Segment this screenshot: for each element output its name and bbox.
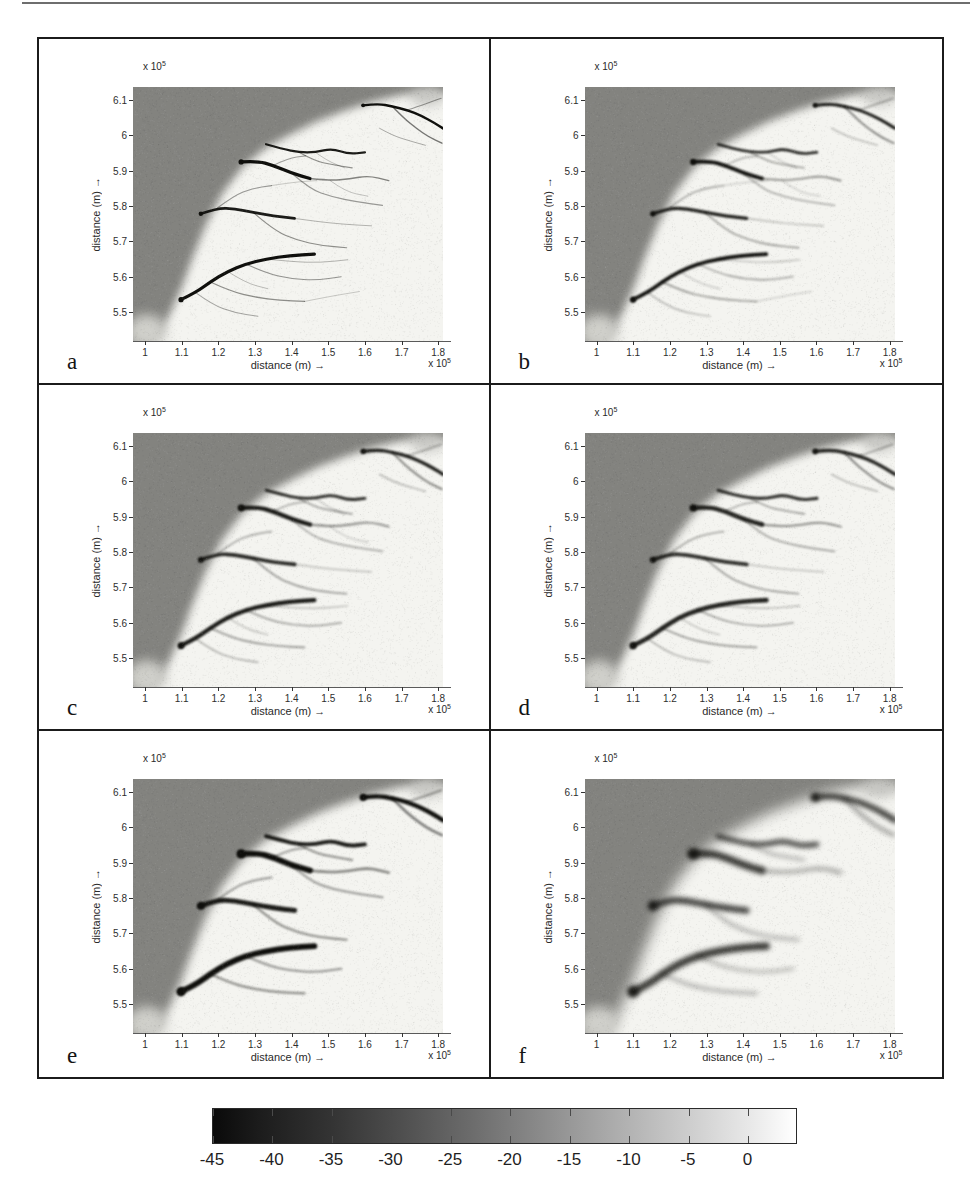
x-tick-label: 1.7	[395, 1039, 409, 1050]
y-exponent-base: x 10	[595, 61, 614, 72]
x-tick-mark	[438, 687, 439, 691]
y-tick-mark	[129, 517, 133, 518]
y-tick-mark	[129, 1004, 133, 1005]
y-exponent-base: x 10	[595, 753, 614, 764]
x-tick-mark	[633, 341, 634, 345]
x-tick-label: 1	[594, 693, 600, 704]
panel-letter-a: a	[67, 349, 77, 375]
y-exponent-power: 5	[162, 752, 166, 759]
colorbar-tick	[629, 1109, 630, 1116]
colorbar-tick-label: -5	[680, 1150, 695, 1170]
x-tick-mark	[255, 341, 256, 345]
x-tick-label: 1.6	[358, 693, 372, 704]
colorbar-tick	[689, 1136, 690, 1143]
x-tick-label: 1.3	[248, 1039, 262, 1050]
x-tick-label: 1.3	[248, 347, 262, 358]
x-exponent-base: x 10	[428, 704, 447, 715]
y-tick-mark	[581, 898, 585, 899]
plot-area-e: 11.11.21.31.41.51.61.71.85.55.65.75.85.9…	[133, 779, 443, 1033]
x-tick-mark	[890, 687, 891, 691]
y-exponent-power: 5	[613, 752, 617, 759]
panel-grid: 11.11.21.31.41.51.61.71.85.55.65.75.85.9…	[37, 37, 944, 1079]
x-exponent-power: 5	[899, 703, 903, 710]
bathymetry-map-e	[133, 779, 443, 1033]
y-axis-exponent: x 105	[143, 406, 166, 418]
y-tick-mark	[581, 1004, 585, 1005]
y-axis-exponent: x 105	[595, 60, 618, 72]
colorbar-tick	[213, 1136, 214, 1143]
y-tick-mark	[581, 933, 585, 934]
x-tick-label: 1.4	[285, 693, 299, 704]
x-tick-label: 1.4	[736, 1039, 750, 1050]
y-tick-mark	[129, 100, 133, 101]
panel-b: 11.11.21.31.41.51.61.71.85.55.65.75.85.9…	[491, 39, 943, 385]
x-tick-label: 1.4	[736, 693, 750, 704]
x-tick-mark	[707, 1033, 708, 1037]
y-tick-mark	[581, 863, 585, 864]
y-axis-exponent: x 105	[143, 60, 166, 72]
scan-edge-line	[22, 2, 970, 4]
colorbar-tick-label: -15	[557, 1150, 582, 1170]
x-tick-mark	[402, 341, 403, 345]
x-tick-label: 1.4	[285, 1039, 299, 1050]
x-tick-mark	[670, 687, 671, 691]
y-axis-label: distance (m) →	[542, 177, 554, 252]
colorbar-tick-label: -45	[200, 1150, 225, 1170]
x-tick-label: 1.3	[248, 693, 262, 704]
x-tick-mark	[633, 687, 634, 691]
y-tick-mark	[581, 241, 585, 242]
x-tick-mark	[145, 1033, 146, 1037]
x-tick-mark	[402, 687, 403, 691]
y-tick-mark	[129, 552, 133, 553]
x-tick-label: 1.7	[846, 347, 860, 358]
x-tick-mark	[743, 341, 744, 345]
y-tick-mark	[129, 863, 133, 864]
y-tick-mark	[581, 827, 585, 828]
y-tick-mark	[129, 241, 133, 242]
x-tick-label: 1.4	[736, 347, 750, 358]
x-tick-mark	[182, 687, 183, 691]
x-axis-exponent: x 105	[880, 357, 903, 369]
y-exponent-base: x 10	[143, 753, 162, 764]
y-exponent-power: 5	[613, 406, 617, 413]
x-tick-label: 1.5	[321, 347, 335, 358]
colorbar	[212, 1108, 797, 1144]
x-tick-label: 1.2	[663, 1039, 677, 1050]
x-tick-mark	[816, 341, 817, 345]
panel-f: 11.11.21.31.41.51.61.71.85.55.65.75.85.9…	[491, 731, 943, 1077]
y-tick-mark	[129, 312, 133, 313]
y-tick-mark	[581, 792, 585, 793]
x-tick-label: 1.7	[846, 1039, 860, 1050]
panel-letter-e: e	[67, 1043, 77, 1069]
y-exponent-base: x 10	[595, 407, 614, 418]
x-tick-mark	[853, 1033, 854, 1037]
bathymetry-map-f	[585, 779, 895, 1033]
x-tick-label: 1.3	[700, 693, 714, 704]
y-exponent-base: x 10	[143, 61, 162, 72]
plot-area-c: 11.11.21.31.41.51.61.71.85.55.65.75.85.9…	[133, 433, 443, 687]
y-axis-exponent: x 105	[143, 752, 166, 764]
x-axis-exponent: x 105	[428, 703, 451, 715]
colorbar-tick	[629, 1136, 630, 1143]
y-tick-mark	[129, 933, 133, 934]
colorbar-tick	[391, 1136, 392, 1143]
x-tick-label: 1.2	[211, 347, 225, 358]
plot-area-a: 11.11.21.31.41.51.61.71.85.55.65.75.85.9…	[133, 87, 443, 341]
colorbar-tick-label: -35	[319, 1150, 344, 1170]
x-tick-mark	[816, 1033, 817, 1037]
x-tick-label: 1	[142, 693, 148, 704]
panel-letter-d: d	[519, 695, 531, 721]
y-tick-mark	[581, 517, 585, 518]
x-tick-label: 1.5	[321, 693, 335, 704]
scanned-figure-page: 11.11.21.31.41.51.61.71.85.55.65.75.85.9…	[0, 0, 970, 1200]
colorbar-tick-label: -25	[438, 1150, 463, 1170]
y-axis-label-wrap: distance (m) →	[89, 433, 103, 687]
colorbar-tick	[272, 1136, 273, 1143]
panel-d: 11.11.21.31.41.51.61.71.85.55.65.75.85.9…	[491, 385, 943, 731]
colorbar-tick	[332, 1136, 333, 1143]
y-exponent-base: x 10	[143, 407, 162, 418]
x-tick-mark	[218, 341, 219, 345]
x-tick-label: 1.1	[175, 347, 189, 358]
x-tick-mark	[780, 1033, 781, 1037]
y-tick-mark	[129, 277, 133, 278]
